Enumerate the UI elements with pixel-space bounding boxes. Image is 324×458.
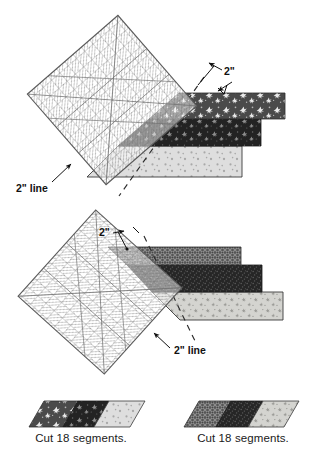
panel-top: 2" 2" line xyxy=(16,15,285,196)
segment-right-caption: Cut 18 segments. xyxy=(162,432,324,444)
top-two-inch-line-label: 2" line xyxy=(16,182,48,194)
diagram-page: 2" 2" line xyxy=(0,0,324,458)
top-two-inch-line-annotation xyxy=(52,164,71,182)
segment-right xyxy=(184,401,299,427)
segment-caption-row: Cut 18 segments. Cut 18 segments. xyxy=(0,432,324,444)
quilting-instruction-figure: 2" 2" line xyxy=(0,0,324,458)
segment-left-caption: Cut 18 segments. xyxy=(0,432,162,444)
mid-two-inch-label: 2" xyxy=(99,226,110,238)
panel-middle: 2" 2" line xyxy=(18,210,283,374)
top-two-inch-label: 2" xyxy=(224,65,235,77)
mid-two-inch-line-annotation xyxy=(154,333,170,348)
segment-left xyxy=(29,401,145,427)
mid-two-inch-line-label: 2" line xyxy=(174,344,206,356)
